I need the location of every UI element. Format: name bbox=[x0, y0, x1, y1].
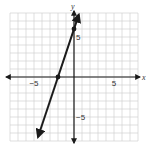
marked-point bbox=[72, 27, 77, 32]
x-tick-label: −5 bbox=[29, 79, 39, 88]
coordinate-plane: −555−5 x y bbox=[0, 0, 149, 147]
x-tick-label: 5 bbox=[112, 79, 117, 88]
y-axis-label: y bbox=[70, 2, 75, 11]
y-tick-label: 5 bbox=[76, 33, 81, 42]
y-tick-label: −5 bbox=[76, 113, 86, 122]
data-series bbox=[38, 15, 79, 137]
marked-point bbox=[56, 75, 61, 80]
x-axis-label: x bbox=[141, 73, 146, 82]
